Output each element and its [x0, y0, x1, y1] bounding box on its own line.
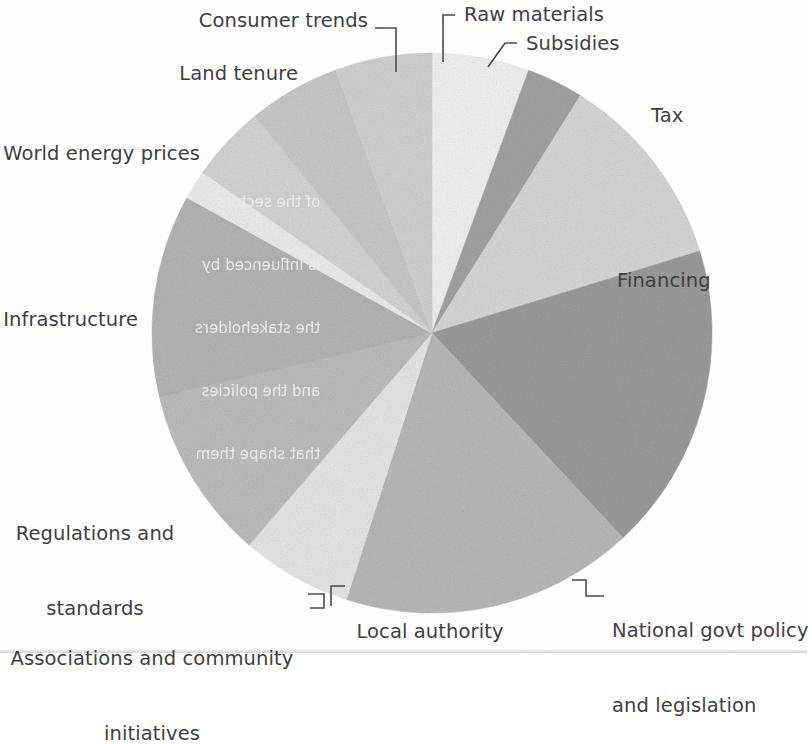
label-subsidies: Subsidies: [526, 31, 746, 56]
label-consumer-trends: Consumer trends: [0, 8, 368, 33]
leader-line-associations: [308, 594, 324, 608]
label-financing: Financing: [617, 268, 807, 293]
label-land-tenure: Land tenure: [0, 61, 298, 86]
leader-line-national-govt: [572, 580, 604, 596]
label-raw-materials: Raw materials: [464, 2, 714, 27]
label-associations-line-1: Associations and community: [2, 646, 302, 671]
label-local-authority: Local authority: [330, 619, 530, 644]
label-associations-line-2: initiatives: [2, 721, 302, 744]
label-regulations-line-1: Regulations and: [0, 521, 190, 546]
label-tax: Tax: [651, 103, 791, 128]
label-national-line-1: National govt policy: [612, 618, 812, 643]
label-national-line-2: and legislation: [612, 693, 812, 718]
label-national-govt-policy: National govt policy and legislation: [612, 568, 812, 744]
label-associations-and-community-initiatives: Associations and community initiatives: [2, 596, 302, 744]
pie-slices-group: [152, 53, 712, 613]
label-infrastructure: Infrastructure: [0, 307, 138, 332]
label-world-energy-prices: World energy prices: [0, 141, 200, 166]
